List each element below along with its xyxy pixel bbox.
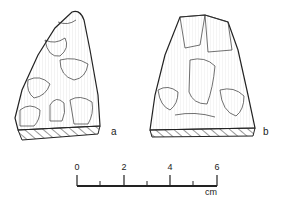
scale-bar bbox=[77, 175, 217, 186]
artifact-b-drawing bbox=[150, 15, 255, 137]
artifact-a-drawing bbox=[15, 11, 100, 140]
scale-unit-label: cm bbox=[205, 187, 217, 197]
artifact-b-label: b bbox=[263, 126, 269, 137]
scale-tick-label-2: 2 bbox=[121, 162, 126, 172]
scale-tick-label-4: 4 bbox=[167, 162, 172, 172]
artifact-a-label: a bbox=[111, 126, 117, 137]
lithic-illustration bbox=[0, 0, 286, 209]
scale-tick-label-0: 0 bbox=[74, 162, 79, 172]
scale-tick-label-6: 6 bbox=[214, 162, 219, 172]
